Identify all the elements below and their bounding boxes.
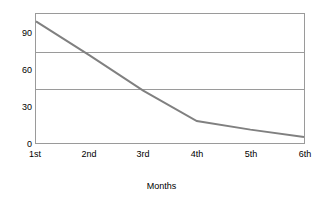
x-axis-title: Months [0,181,323,191]
y-axis-tick-label-60: 60 [6,66,32,75]
series-line-series-1 [36,21,304,137]
x-axis-tick-label-5th: 5th [234,150,268,159]
x-axis-tick-label-2nd: 2nd [72,150,106,159]
x-axis-tick-label-6th: 6th [288,150,322,159]
x-axis-tick-label-1st: 1st [18,150,52,159]
y-axis-tick-label-30: 30 [6,103,32,112]
line-chart: 90 60 30 0 1st 2nd 3rd 4th 5th 6th Month… [0,0,323,206]
x-axis-tick-label-3rd: 3rd [126,150,160,159]
series-line-group [36,14,304,143]
x-axis-tick-label-4th: 4th [180,150,214,159]
y-axis-tick-label-0: 0 [6,140,32,149]
y-axis-tick-label-90: 90 [6,29,32,38]
plot-area [35,13,305,144]
